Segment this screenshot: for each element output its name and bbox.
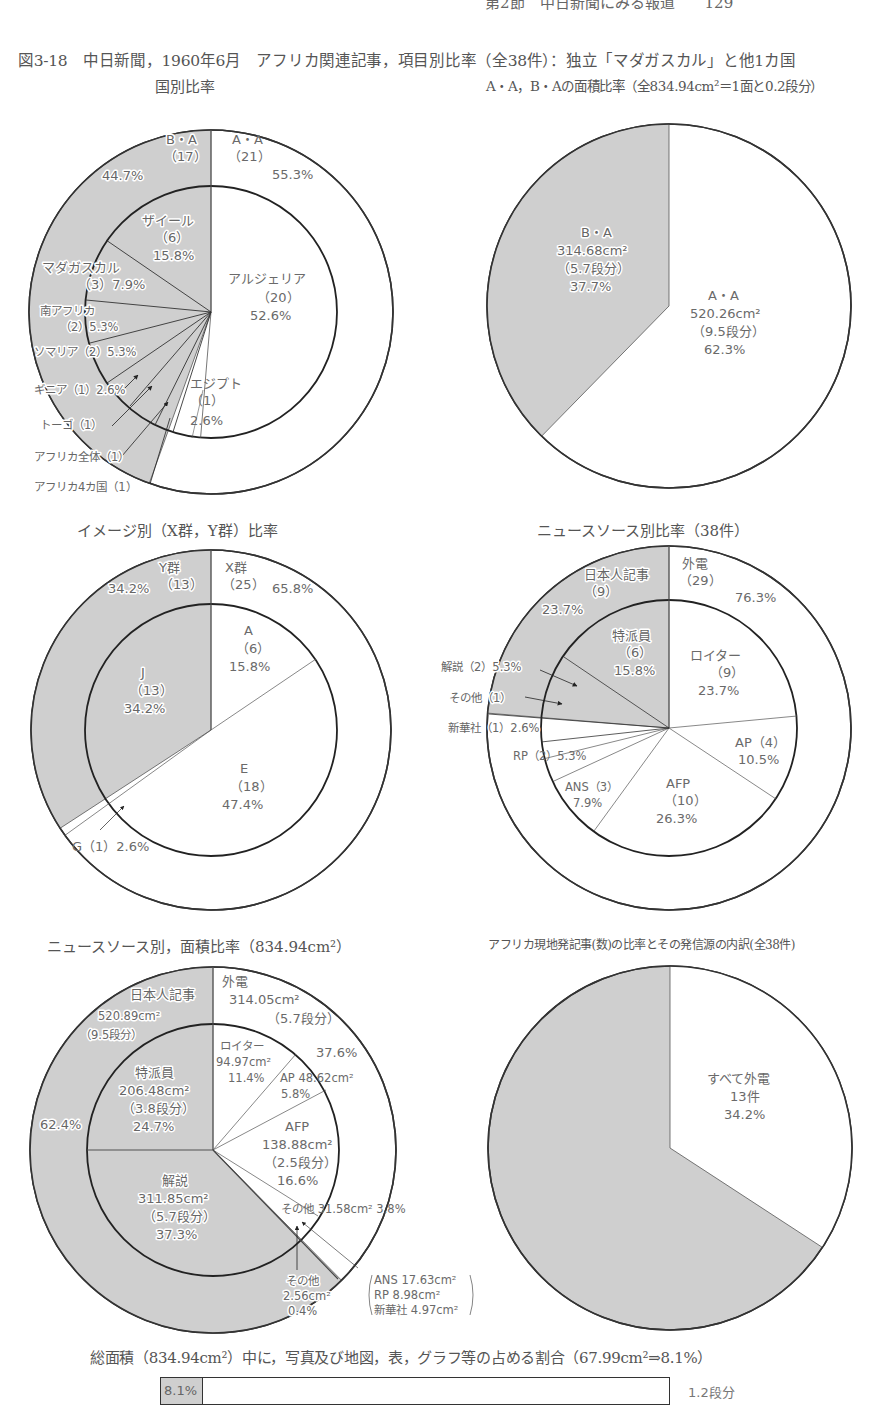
- svg-text:（3.8段分）: （3.8段分）: [122, 1101, 195, 1116]
- svg-text:（20）: （20）: [257, 290, 300, 305]
- label-other-jp-area: その他: [286, 1274, 320, 1288]
- svg-text:62.4%: 62.4%: [40, 1117, 81, 1132]
- label-guinea: ギニア（1）2.6%: [34, 383, 126, 397]
- svg-text:5.8%: 5.8%: [281, 1087, 310, 1101]
- label-afp-area: AFP: [285, 1119, 309, 1134]
- label-breakdown-xinhua: 新華社 4.97cm²: [374, 1303, 458, 1317]
- svg-text:（5.7段分）: （5.7段分）: [557, 261, 630, 276]
- svg-text:37.7%: 37.7%: [570, 279, 611, 294]
- svg-text:62.3%: 62.3%: [704, 342, 745, 357]
- label-y: Y群: [158, 560, 180, 575]
- svg-text:65.8%: 65.8%: [272, 581, 313, 596]
- label-somalia: ソマリア（2）5.3%: [34, 345, 137, 359]
- label-ap: AP（4）: [735, 735, 786, 750]
- label-ba: B・A: [166, 132, 197, 147]
- svg-text:37.3%: 37.3%: [156, 1227, 197, 1242]
- svg-text:（13）: （13）: [160, 577, 203, 592]
- label-zaire: ザイール: [142, 213, 194, 228]
- svg-text:16.6%: 16.6%: [277, 1173, 318, 1188]
- svg-text:2.56cm²: 2.56cm²: [283, 1289, 331, 1303]
- label-madagascar: マダガスカル: [42, 260, 120, 275]
- label-foreign-area: 外電: [222, 974, 248, 989]
- pie-area-by-news-source: 外電 314.05cm² （5.7段分） 37.6% 日本人記事 520.89c…: [30, 967, 473, 1333]
- label-aa-area: A・A: [708, 288, 739, 303]
- svg-text:23.7%: 23.7%: [542, 602, 583, 617]
- bar-right-label: 1.2段分: [688, 1382, 735, 1401]
- label-other-foreign-area: その他 31.58cm² 3.8%: [281, 1202, 406, 1216]
- svg-text:（9）: （9）: [710, 665, 744, 680]
- label-other: その他（1）: [449, 691, 511, 705]
- svg-text:76.3%: 76.3%: [735, 590, 776, 605]
- label-e: E: [240, 761, 248, 776]
- svg-text:（10）: （10）: [664, 793, 707, 808]
- charts-canvas: A・A （21） 55.3% B・A （17） 44.7% アルジェリア （20…: [0, 0, 889, 1417]
- svg-text:520.89cm²: 520.89cm²: [98, 1009, 160, 1023]
- bar-fill-label: 8.1%: [164, 1383, 197, 1398]
- label-breakdown-ans: ANS 17.63cm²: [374, 1273, 456, 1287]
- svg-text:34.2%: 34.2%: [724, 1107, 765, 1122]
- svg-text:（2）5.3%: （2）5.3%: [60, 320, 119, 334]
- pie-by-country: A・A （21） 55.3% B・A （17） 44.7% アルジェリア （20…: [29, 130, 393, 494]
- label-rp: RP（2）5.3%: [513, 749, 587, 763]
- svg-text:23.7%: 23.7%: [698, 683, 739, 698]
- svg-text:（3）7.9%: （3）7.9%: [78, 277, 145, 292]
- svg-text:138.88cm²: 138.88cm²: [262, 1137, 333, 1152]
- label-commentary-area: 解説: [162, 1173, 188, 1188]
- label-reuters-area: ロイター: [220, 1039, 264, 1053]
- svg-text:94.97cm²: 94.97cm²: [216, 1055, 271, 1069]
- label-egypt: エジプト: [190, 376, 242, 391]
- svg-text:314.05cm²: 314.05cm²: [229, 992, 300, 1007]
- label-g: G（1）2.6%: [72, 839, 149, 854]
- svg-text:26.3%: 26.3%: [656, 811, 697, 826]
- svg-text:（6）: （6）: [155, 230, 189, 245]
- label-togo: トーゴ（1）: [40, 418, 102, 432]
- svg-text:（2.5段分）: （2.5段分）: [264, 1155, 337, 1170]
- svg-text:55.3%: 55.3%: [272, 167, 313, 182]
- svg-text:15.8%: 15.8%: [229, 659, 270, 674]
- label-commentary: 解説（2）5.3%: [441, 660, 522, 674]
- svg-text:311.85cm²: 311.85cm²: [138, 1191, 209, 1206]
- label-south-africa: 南アフリカ: [40, 304, 95, 318]
- svg-text:（6）: （6）: [618, 645, 652, 660]
- label-aa: A・A: [232, 132, 263, 147]
- pie-by-news-source: 外電 （29） 76.3% 日本人記事 （9） 23.7% 特派員 （6） 15…: [441, 546, 851, 910]
- label-afp: AFP: [666, 776, 690, 791]
- svg-text:（1）: （1）: [190, 393, 224, 408]
- label-correspondent: 特派員: [612, 628, 651, 643]
- svg-text:（17）: （17）: [164, 149, 207, 164]
- svg-text:7.9%: 7.9%: [573, 796, 602, 810]
- svg-text:15.8%: 15.8%: [614, 663, 655, 678]
- svg-text:15.8%: 15.8%: [153, 248, 194, 263]
- svg-text:（9.5段分）: （9.5段分）: [80, 1028, 142, 1042]
- svg-text:206.48cm²: 206.48cm²: [119, 1083, 190, 1098]
- svg-text:2.6%: 2.6%: [190, 413, 223, 428]
- svg-text:314.68cm²: 314.68cm²: [557, 243, 628, 258]
- label-japanese-area: 日本人記事: [130, 987, 195, 1002]
- svg-text:24.7%: 24.7%: [133, 1119, 174, 1134]
- label-local: すべて外電: [707, 1071, 770, 1086]
- svg-text:（25）: （25）: [222, 577, 265, 592]
- svg-text:520.26cm²: 520.26cm²: [690, 306, 761, 321]
- svg-text:37.6%: 37.6%: [316, 1045, 357, 1060]
- svg-text:（18）: （18）: [230, 779, 273, 794]
- svg-text:（29）: （29）: [679, 573, 722, 588]
- pie-area-aa-ba: B・A 314.68cm² （5.7段分） 37.7% A・A 520.26cm…: [487, 124, 851, 488]
- label-algeria: アルジェリア: [228, 271, 306, 286]
- bottom-caption: 総面積（834.94cm²）中に，写真及び地図，表，グラフ等の占める割合（67.…: [90, 1346, 712, 1367]
- svg-text:34.2%: 34.2%: [108, 581, 149, 596]
- label-breakdown-rp: RP 8.98cm²: [374, 1288, 440, 1302]
- svg-text:11.4%: 11.4%: [228, 1071, 265, 1085]
- svg-text:0.4%: 0.4%: [288, 1304, 317, 1318]
- label-reuters: ロイター: [690, 648, 741, 663]
- label-a: A: [244, 623, 253, 638]
- label-correspondent-area: 特派員: [135, 1065, 174, 1080]
- svg-text:10.5%: 10.5%: [738, 752, 779, 767]
- svg-text:52.6%: 52.6%: [250, 308, 291, 323]
- svg-text:（13）: （13）: [130, 683, 173, 698]
- label-ap-area: AP 48.62cm²: [280, 1071, 354, 1085]
- pie-by-image: Y群 （13） 34.2% X群 （25） 65.8% A （6） 15.8% …: [31, 550, 391, 910]
- svg-text:（21）: （21）: [228, 149, 271, 164]
- label-x: X群: [225, 560, 247, 575]
- label-j: J: [140, 665, 145, 680]
- label-africa-all: アフリカ全体（1）: [34, 450, 129, 464]
